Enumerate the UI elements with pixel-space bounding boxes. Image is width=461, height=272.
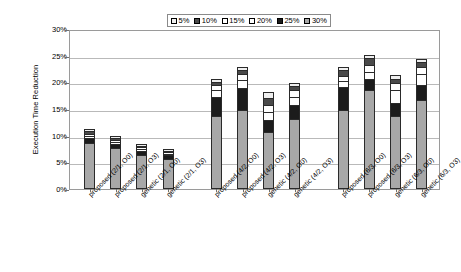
legend-label: 25% <box>284 16 299 25</box>
bar-segment-20pct <box>364 72 375 79</box>
gridline <box>70 111 439 112</box>
y-tick-mark <box>65 137 69 138</box>
y-tick-label: 25% <box>40 53 67 61</box>
bar-segment-25pct <box>289 105 300 119</box>
bar-segment-25pct <box>364 79 375 90</box>
bar-segment-30pct <box>211 116 222 189</box>
bar-segment-10pct <box>364 58 375 65</box>
gridline <box>70 58 439 59</box>
legend-item-20pct: 20% <box>249 16 272 25</box>
y-axis-tick-labels: 0%5%10%15%20%25%30% <box>40 24 67 196</box>
legend-item-30pct: 30% <box>304 16 327 25</box>
y-tick-label: 15% <box>40 106 67 114</box>
bar-segment-20pct <box>416 74 427 85</box>
bar-segment-30pct <box>84 143 95 189</box>
bar-column <box>84 129 95 189</box>
bar-segment-25pct <box>390 103 401 116</box>
y-tick-label: 0% <box>40 186 67 194</box>
y-tick-mark <box>65 30 69 31</box>
legend-label: 10% <box>202 16 217 25</box>
y-tick-label: 5% <box>40 159 67 167</box>
bar-segment-20pct <box>237 80 248 88</box>
legend-swatch-icon <box>304 18 310 24</box>
bar-segment-15pct <box>416 67 427 74</box>
y-tick-mark <box>65 83 69 84</box>
y-tick-mark <box>65 190 69 191</box>
y-tick-label: 30% <box>40 26 67 34</box>
bar-segment-25pct <box>416 85 427 100</box>
y-tick-mark <box>65 57 69 58</box>
legend-item-15pct: 15% <box>222 16 245 25</box>
bar-segment-20pct <box>289 97 300 105</box>
y-tick-mark <box>65 163 69 164</box>
legend-label: 20% <box>257 16 272 25</box>
bar-segment-10pct <box>263 98 274 105</box>
bar-segment-25pct <box>237 88 248 110</box>
bar-column <box>211 79 222 189</box>
bar-segment-25pct <box>211 97 222 116</box>
legend-swatch-icon <box>277 18 283 24</box>
chart-legend: 5%10%15%20%25%30% <box>167 14 331 27</box>
legend-item-10pct: 10% <box>194 16 217 25</box>
bar-segment-30pct <box>338 110 349 189</box>
y-tick-label: 10% <box>40 133 67 141</box>
legend-label: 5% <box>179 16 190 25</box>
legend-label: 30% <box>312 16 327 25</box>
bar-segment-20pct <box>263 112 274 119</box>
bar-segment-25pct <box>263 120 274 133</box>
legend-item-5pct: 5% <box>171 16 189 25</box>
legend-label: 15% <box>229 16 244 25</box>
y-tick-mark <box>65 110 69 111</box>
bar-segment-15pct <box>263 105 274 112</box>
legend-swatch-icon <box>222 18 228 24</box>
gridline <box>70 84 439 85</box>
bar-segment-15pct <box>390 83 401 90</box>
y-axis-title: Execution Time Reduction <box>31 30 40 190</box>
bar-column <box>338 67 349 189</box>
legend-swatch-icon <box>194 18 200 24</box>
bar-segment-20pct <box>211 90 222 97</box>
legend-swatch-icon <box>171 18 177 24</box>
bar-segment-20pct <box>390 90 401 103</box>
legend-item-25pct: 25% <box>277 16 300 25</box>
y-tick-label: 20% <box>40 79 67 87</box>
gridline <box>70 138 439 139</box>
legend-swatch-icon <box>249 18 255 24</box>
bar-segment-25pct <box>338 87 349 110</box>
